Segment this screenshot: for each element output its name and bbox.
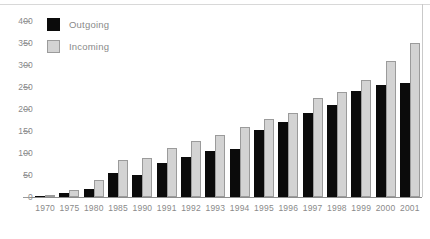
bar-group [373, 21, 397, 197]
x-axis-tick-label: 1970 [33, 203, 57, 213]
bar-incoming [313, 98, 323, 197]
x-axis-tick-label: 1980 [82, 203, 106, 213]
bar-outgoing [351, 91, 361, 197]
gray-square-icon [47, 40, 60, 53]
bar-group [349, 21, 373, 197]
bar-incoming [191, 141, 201, 197]
bar-incoming [288, 113, 298, 197]
bar-outgoing [205, 151, 215, 197]
y-axis-tick: 150 [0, 126, 33, 136]
legend-item: Incoming [47, 35, 109, 57]
y-axis-tick: 350 [0, 38, 33, 48]
y-axis-tick-mark [23, 65, 30, 66]
y-axis-tick-mark [23, 175, 30, 176]
legend-item-label: Incoming [69, 41, 109, 52]
x-axis-tick-label: 1994 [228, 203, 252, 213]
y-axis-tick: 100 [0, 148, 33, 158]
x-axis-tick-label: 1975 [57, 203, 81, 213]
bar-incoming [94, 180, 104, 197]
y-axis-tick: 200 [0, 104, 33, 114]
bar-outgoing [181, 157, 191, 197]
bar-group [155, 21, 179, 197]
bar-incoming [264, 119, 274, 197]
bar-group [398, 21, 422, 197]
y-axis-tick: 50 [0, 170, 33, 180]
x-axis-tick-label: 1992 [179, 203, 203, 213]
bar-outgoing [303, 113, 313, 197]
bar-group [130, 21, 154, 197]
bar-outgoing [376, 85, 386, 197]
y-axis-tick-mark [23, 197, 30, 198]
y-axis-tick-mark [23, 153, 30, 154]
chart-legend: OutgoingIncoming [47, 13, 109, 57]
x-axis-tick-label: 1993 [203, 203, 227, 213]
bar-incoming [361, 80, 371, 197]
chart-top-border [0, 4, 430, 5]
x-axis-tick-label: 1991 [155, 203, 179, 213]
bar-outgoing [230, 149, 240, 197]
y-axis-tick: 250 [0, 82, 33, 92]
bar-incoming [410, 43, 420, 197]
x-axis-tick-label: 1998 [325, 203, 349, 213]
bar-incoming [118, 160, 128, 197]
y-axis-tick-mark [23, 131, 30, 132]
bar-chart: 400350300250200150100500 197019751980198… [0, 0, 430, 239]
bar-group [203, 21, 227, 197]
black-square-icon [47, 18, 60, 31]
bar-group [300, 21, 324, 197]
x-axis-tick-label: 1990 [130, 203, 154, 213]
bar-incoming [142, 158, 152, 197]
y-axis-tick-mark [23, 43, 30, 44]
bar-incoming [69, 190, 79, 197]
x-axis-tick-label: 1999 [349, 203, 373, 213]
bar-outgoing [35, 196, 45, 197]
bar-incoming [240, 127, 250, 197]
y-axis-tick: 0 [0, 192, 33, 202]
x-axis-tick-label: 1997 [300, 203, 324, 213]
bar-group [179, 21, 203, 197]
bar-incoming [386, 61, 396, 197]
bar-group [325, 21, 349, 197]
bar-group [276, 21, 300, 197]
y-axis-tick-mark [23, 87, 30, 88]
x-axis-tick-label: 1996 [276, 203, 300, 213]
bar-outgoing [327, 105, 337, 197]
bar-group [228, 21, 252, 197]
bar-outgoing [254, 130, 264, 197]
bar-incoming [45, 195, 55, 197]
bar-group [106, 21, 130, 197]
y-axis-tick-mark [23, 21, 30, 22]
y-axis-tick: 400 [0, 16, 33, 26]
bar-outgoing [84, 189, 94, 197]
bar-outgoing [132, 175, 142, 197]
legend-item: Outgoing [47, 13, 109, 35]
y-axis-tick-mark [23, 109, 30, 110]
bar-outgoing [157, 163, 167, 197]
bar-group [252, 21, 276, 197]
x-axis-tick-label: 1985 [106, 203, 130, 213]
bar-outgoing [400, 83, 410, 197]
bar-outgoing [278, 122, 288, 197]
chart-right-border [422, 4, 423, 197]
x-axis-tick-label: 2000 [373, 203, 397, 213]
bar-outgoing [108, 173, 118, 197]
legend-item-label: Outgoing [69, 19, 109, 30]
y-axis-tick: 300 [0, 60, 33, 70]
x-axis-tick-label: 2001 [398, 203, 422, 213]
bar-incoming [167, 148, 177, 197]
x-axis-tick-label: 1995 [252, 203, 276, 213]
bar-outgoing [59, 193, 69, 197]
x-axis-baseline [30, 197, 422, 198]
bar-incoming [337, 92, 347, 197]
bar-incoming [215, 135, 225, 197]
